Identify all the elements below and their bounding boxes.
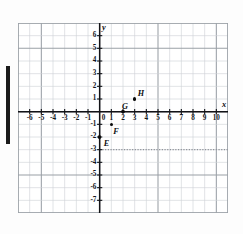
screenshot-canvas: -6-5-4-3-2-112345678910654321-1-2-3-4-5-… [0, 0, 243, 234]
coordinate-plane: -6-5-4-3-2-112345678910654321-1-2-3-4-5-… [18, 23, 228, 213]
x-axis-tick-label: 2 [121, 115, 125, 122]
x-axis-tick-label: 7 [180, 115, 184, 122]
y-axis-tick-label: -4 [90, 159, 96, 166]
y-axis-name: y [102, 24, 106, 32]
y-axis-tick-label: -7 [90, 197, 96, 204]
x-axis-tick-label: 9 [203, 115, 207, 122]
data-point-label: H [138, 90, 144, 98]
x-axis-tick-label: -6 [27, 115, 33, 122]
y-axis-tick-label: -2 [90, 133, 96, 140]
x-axis-tick-label: 1 [110, 115, 114, 122]
y-axis-tick-label: 4 [93, 57, 97, 64]
data-point [98, 135, 101, 138]
x-axis-tick-label: 5 [156, 115, 160, 122]
x-axis-tick-label: 8 [191, 115, 195, 122]
data-point [110, 123, 113, 126]
origin-label: 0 [102, 115, 106, 122]
data-point [133, 97, 136, 100]
data-point-label: G [122, 103, 128, 111]
data-point-label: E [104, 140, 109, 148]
x-axis-tick-label: 4 [145, 115, 149, 122]
y-axis-tick-label: 1 [93, 95, 97, 102]
y-axis-tick-label: 3 [93, 70, 97, 77]
x-axis-tick-label: 6 [168, 115, 172, 122]
y-axis-tick-label: -1 [90, 121, 96, 128]
y-axis-tick-label: 2 [93, 83, 97, 90]
data-point-label: F [113, 128, 118, 136]
left-edge-bar [6, 66, 10, 144]
x-axis-tick-label: 3 [133, 115, 137, 122]
x-axis-tick-label: -5 [38, 115, 44, 122]
x-axis-tick-label: -2 [73, 115, 79, 122]
x-axis-tick-label: -3 [62, 115, 68, 122]
y-axis-tick-label: -6 [90, 184, 96, 191]
x-axis-tick-label: 10 [213, 115, 220, 122]
x-axis-name: x [222, 101, 226, 109]
y-axis-tick-label: 5 [93, 45, 97, 52]
x-axis-tick-label: -4 [50, 115, 56, 122]
y-axis-tick-label: 6 [93, 32, 97, 39]
y-axis-tick-label: -5 [90, 171, 96, 178]
y-axis-tick-label: -3 [90, 146, 96, 153]
